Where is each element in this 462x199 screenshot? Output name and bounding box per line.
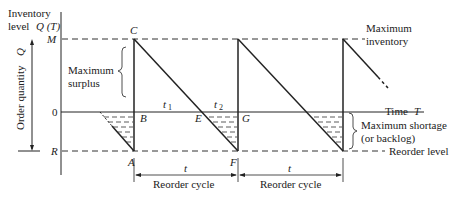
svg-text:surplus: surplus — [68, 77, 100, 89]
arrow-up-icon — [30, 39, 34, 45]
svg-text:Maximum: Maximum — [68, 64, 114, 76]
svg-text:T: T — [414, 105, 421, 117]
svg-text:G: G — [242, 112, 250, 124]
arrow-down-icon — [30, 145, 34, 151]
shortage-brace — [349, 113, 357, 149]
svg-text:t: t — [163, 98, 167, 110]
svg-text:E: E — [194, 112, 202, 124]
svg-text:Maximum shortage: Maximum shortage — [361, 119, 447, 131]
svg-text:Time: Time — [385, 105, 408, 117]
svg-text:0: 0 — [52, 106, 58, 118]
svg-text:Reorder level: Reorder level — [389, 145, 449, 157]
depletion-2 — [238, 39, 343, 151]
svg-text:B: B — [140, 112, 147, 124]
svg-text:t: t — [214, 98, 218, 110]
svg-text:1: 1 — [168, 103, 172, 112]
inventory-diagram: Inventory level Q (T) M 0 R Order quanti… — [0, 0, 462, 199]
surplus-brace — [118, 47, 126, 97]
svg-text:Reorder cycle: Reorder cycle — [153, 178, 214, 190]
svg-text:F: F — [229, 156, 237, 168]
svg-text:t: t — [288, 162, 292, 174]
svg-text:(or backlog): (or backlog) — [361, 132, 415, 145]
svg-text:Reorder cycle: Reorder cycle — [260, 178, 321, 190]
svg-text:inventory: inventory — [366, 35, 409, 47]
svg-text:Maximum: Maximum — [366, 22, 412, 34]
depletion-1 — [134, 39, 238, 151]
svg-text:Q (T): Q (T) — [36, 20, 60, 33]
svg-text:C: C — [130, 24, 138, 36]
svg-text:R: R — [50, 145, 58, 157]
svg-text:2: 2 — [219, 103, 223, 112]
svg-text:Q: Q — [14, 48, 26, 56]
y-axis-label: Inventory — [8, 7, 51, 19]
order-quantity-label: Order quantity — [14, 65, 26, 130]
svg-text:t: t — [184, 162, 188, 174]
svg-text:M: M — [46, 33, 57, 45]
svg-text:level: level — [8, 20, 29, 32]
svg-text:A: A — [127, 156, 135, 168]
